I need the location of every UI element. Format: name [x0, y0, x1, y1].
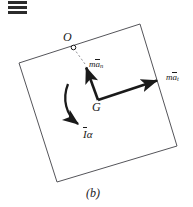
figure-caption: (b) [86, 187, 100, 199]
vector-label-man-base: a [96, 60, 101, 69]
vector-label-mat-sub: t [177, 75, 179, 82]
couple-label-symbol: α [87, 128, 93, 140]
point-label-G: G [92, 101, 101, 113]
vector-label-mat-base: a [173, 73, 178, 82]
figure-container: O G man mat Iα (b) [0, 0, 193, 207]
point-O-marker [71, 45, 76, 50]
vector-label-mat: mat [166, 73, 179, 83]
couple-label-I-alpha: Iα [83, 129, 92, 140]
vector-label-man-sub: n [100, 62, 103, 69]
couple-label-base: I [83, 129, 87, 140]
vector-label-man: man [89, 60, 103, 70]
point-label-O: O [63, 31, 72, 43]
